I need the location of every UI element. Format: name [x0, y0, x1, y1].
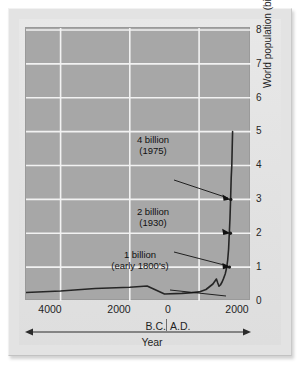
annotation-1-billion-line1: 1 billion — [88, 249, 192, 260]
annotation-2-billion-line2: (1930) — [118, 217, 188, 228]
y-tick-0: 0 — [256, 296, 270, 306]
leader-4-billion — [174, 180, 228, 198]
x-tick-4000-bc: 4000 — [30, 303, 70, 315]
y-axis-title: World population (billions) — [262, 0, 273, 88]
point-4-billion — [229, 198, 232, 201]
x-tick-0: 0 — [148, 303, 188, 315]
annotation-1-billion-line2: (early 1800's) — [88, 260, 192, 271]
x-tick-2000-bc: 2000 — [99, 303, 139, 315]
point-2-billion — [229, 232, 232, 235]
x-axis-title: Year — [112, 336, 192, 348]
point-1-billion — [228, 265, 231, 268]
y-tick-1: 1 — [256, 262, 270, 272]
y-tick-5: 5 — [256, 126, 270, 136]
annotation-4-billion-line2: (1975) — [118, 145, 188, 156]
y-tick-3: 3 — [256, 194, 270, 204]
year-arrow-right-head — [243, 329, 251, 336]
y-tick-2: 2 — [256, 228, 270, 238]
annotation-4-billion-line1: 4 billion — [118, 134, 188, 145]
annotation-1-billion: 1 billion (early 1800's) — [88, 249, 192, 271]
annotation-2-billion-line1: 2 billion — [118, 206, 188, 217]
annotation-4-billion: 4 billion (1975) — [118, 134, 188, 156]
annotation-2-billion: 2 billion (1930) — [118, 206, 188, 228]
y-tick-6: 6 — [256, 93, 270, 103]
x-tick-2000-ad: 2000 — [217, 303, 257, 315]
year-arrow-left-head — [25, 329, 33, 336]
y-tick-4: 4 — [256, 160, 270, 170]
population-growth-figure: 4 billion (1975) 2 billion (1930) 1 bill… — [0, 0, 304, 369]
